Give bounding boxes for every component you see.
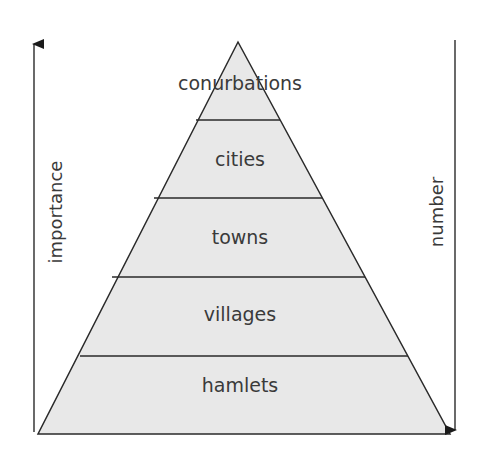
level-label-conurbations: conurbations [178,72,302,94]
importance-axis-label: importance [45,161,66,264]
number-axis-label: number [426,177,447,247]
level-label-hamlets: hamlets [202,374,279,396]
level-label-towns: towns [212,226,269,248]
level-label-villages: villages [204,303,276,325]
level-label-cities: cities [215,148,265,170]
